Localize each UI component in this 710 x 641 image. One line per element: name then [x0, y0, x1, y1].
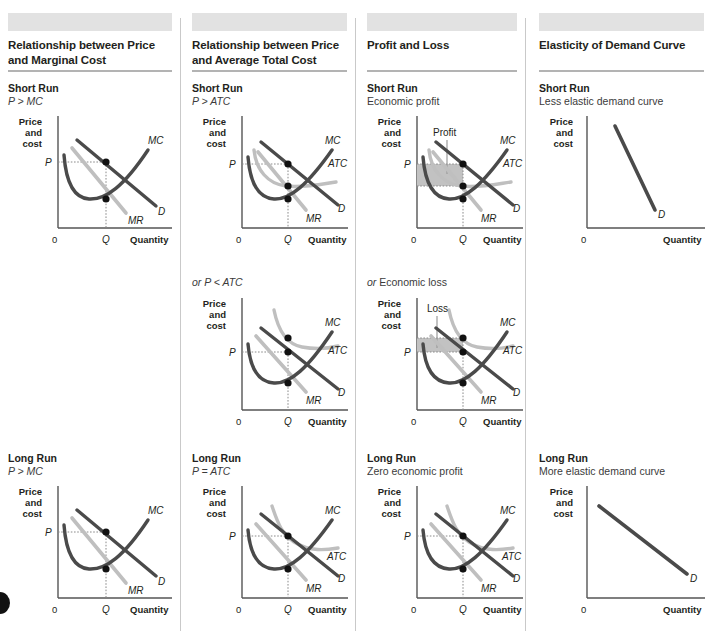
- column-divider-1: [180, 18, 181, 631]
- equilibrium-point-atc: [284, 334, 291, 341]
- y-axis-title-c4b: Price and cost: [537, 486, 573, 519]
- chart-long-run-p-gt-mc: MC D MR P 0 Q Quantity: [44, 480, 176, 620]
- or-prefix: or: [367, 276, 376, 288]
- equilibrium-point-price: [284, 532, 291, 539]
- label-atc: ATC: [502, 345, 523, 356]
- panel-long-run-zero-economic-profit: Long Run Zero economic profit: [367, 452, 463, 478]
- panel-subtitle: P > MC: [8, 465, 57, 478]
- figure-page: Relationship between Price and Marginal …: [0, 0, 710, 641]
- label-mr: MR: [306, 213, 322, 224]
- label-atc: ATC: [327, 158, 348, 169]
- panel-long-run-p-gt-mc: Long Run P > MC: [8, 452, 57, 478]
- x-axis-title: Quantity: [130, 604, 169, 615]
- label-d: D: [158, 206, 165, 217]
- axis-origin: 0: [52, 604, 57, 615]
- label-d: D: [338, 573, 345, 584]
- label-atc: ATC: [501, 551, 522, 562]
- equilibrium-point-atc: [459, 182, 466, 189]
- panel-long-run-more-elastic: Long Run More elastic demand curve: [539, 452, 665, 478]
- label-d: D: [658, 209, 665, 220]
- panel-title: Short Run: [8, 82, 59, 95]
- tick-q: Q: [459, 416, 467, 427]
- label-mr: MR: [481, 583, 497, 594]
- panel-short-run-p-gt-mc: Short Run P > MC: [8, 82, 59, 108]
- y-axis-title-c2a: Price and cost: [190, 116, 226, 149]
- equilibrium-point-price: [459, 532, 466, 539]
- column-title-profit-and-loss: Profit and Loss: [367, 38, 517, 53]
- label-d: D: [513, 387, 520, 398]
- panel-subtitle: Less elastic demand curve: [539, 95, 663, 108]
- panel-short-run-less-elastic: Short Run Less elastic demand curve: [539, 82, 663, 108]
- curve-mr: [431, 524, 481, 580]
- label-mc: MC: [500, 505, 516, 516]
- chart-short-run-p-gt-atc: MC ATC D MR P 0 Q Quantity: [228, 110, 352, 250]
- panel-title: Short Run: [539, 82, 663, 95]
- curve-mr: [256, 524, 306, 580]
- header-rule-col3: [367, 70, 517, 72]
- chart-svg: MC ATC D MR P 0 Q Quantity: [228, 292, 352, 432]
- curve-d: [599, 506, 687, 574]
- panel-subtitle: Zero economic profit: [367, 465, 463, 478]
- tick-q: Q: [459, 604, 467, 615]
- label-mc: MC: [500, 135, 516, 146]
- tick-p: P: [404, 159, 411, 170]
- chart-long-run-zero-economic-profit: MC ATC D MR P 0 Q Quantity: [403, 480, 527, 620]
- equilibrium-point-price: [102, 158, 109, 165]
- panel-title: Long Run: [367, 452, 463, 465]
- panel-title: Long Run: [8, 452, 57, 465]
- x-axis-title: Quantity: [130, 234, 169, 245]
- label-mr: MR: [481, 213, 497, 224]
- equilibrium-point-atc: [284, 182, 291, 189]
- panel-or-p-lt-atc-heading: or P < ATC: [192, 276, 243, 288]
- x-axis-title: Quantity: [308, 604, 347, 615]
- curve-d: [77, 140, 156, 206]
- chart-svg: MC ATC D MR P 0 Q Quantity: [403, 480, 527, 620]
- header-bar-col1: [8, 13, 172, 31]
- tick-p: P: [229, 531, 236, 542]
- panel-heading: Short Run Economic profit: [367, 82, 439, 108]
- equilibrium-point-mc: [459, 565, 466, 572]
- axis-origin: 0: [581, 234, 586, 245]
- label-mr: MR: [306, 395, 322, 406]
- annotation-loss: Loss: [427, 303, 448, 314]
- panel-subtitle: P > MC: [8, 95, 59, 108]
- axis-origin: 0: [236, 234, 241, 245]
- chart-svg: MC ATC D MR P 0 Q Quantity: [228, 480, 352, 620]
- panel-title: Short Run: [367, 82, 439, 95]
- label-atc: ATC: [327, 345, 348, 356]
- label-d: D: [338, 387, 345, 398]
- axis-origin: 0: [581, 604, 586, 615]
- panel-heading: Long Run P > MC: [8, 452, 57, 478]
- x-axis-title: Quantity: [308, 416, 347, 427]
- panel-short-run-economic-profit: Short Run Economic profit: [367, 82, 439, 108]
- axis-origin: 0: [411, 234, 416, 245]
- equilibrium-point-atc: [459, 334, 466, 341]
- label-mc: MC: [500, 317, 516, 328]
- label-d: D: [158, 576, 165, 587]
- chart-svg: Loss MC ATC D MR P 0 Q Quantity: [403, 292, 527, 432]
- curve-d: [77, 510, 156, 576]
- panel-short-run-p-gt-atc: Short Run P > ATC: [192, 82, 243, 108]
- panel-subtitle: P > ATC: [192, 95, 243, 108]
- tick-p: P: [404, 531, 411, 542]
- column-title-price-marginal-cost: Relationship between Price and Marginal …: [8, 38, 172, 67]
- equilibrium-point-price: [459, 348, 466, 355]
- header-bar-col4: [539, 13, 704, 31]
- x-axis-title: Quantity: [308, 234, 347, 245]
- chart-or-economic-loss: Loss MC ATC D MR P 0 Q Quantity: [403, 292, 527, 432]
- panel-heading: Long Run Zero economic profit: [367, 452, 463, 478]
- label-mr: MR: [128, 585, 144, 596]
- tick-q: Q: [284, 604, 292, 615]
- chart-short-run-less-elastic: D 0 Quantity: [573, 110, 709, 250]
- or-text: Economic loss: [379, 276, 447, 288]
- label-mc: MC: [325, 135, 341, 146]
- chart-or-p-lt-atc: MC ATC D MR P 0 Q Quantity: [228, 292, 352, 432]
- panel-heading: Short Run Less elastic demand curve: [539, 82, 663, 108]
- y-axis-title-c2b: Price and cost: [190, 298, 226, 331]
- tick-p: P: [45, 157, 52, 168]
- tick-p: P: [229, 159, 236, 170]
- header-rule-col2: [192, 70, 347, 72]
- axis-origin: 0: [411, 604, 416, 615]
- panel-subtitle: P = ATC: [192, 465, 241, 478]
- x-axis-title: Quantity: [483, 234, 522, 245]
